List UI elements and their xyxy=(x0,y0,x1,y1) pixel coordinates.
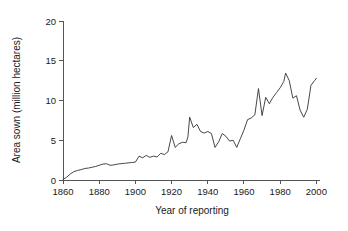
x-tick-label: 1860 xyxy=(52,186,73,197)
x-axis-title: Year of reporting xyxy=(155,205,229,216)
y-axis-ticks: 05101520 xyxy=(45,16,63,186)
x-tick-label: 2000 xyxy=(306,186,327,197)
data-series-line xyxy=(63,73,316,180)
line-chart-plot: 05101520 1860188019001920194019601980200… xyxy=(0,0,348,231)
x-tick-label: 1980 xyxy=(270,186,291,197)
y-tick-label: 15 xyxy=(45,55,56,66)
y-axis-title: Area sown (million hectares) xyxy=(11,37,22,163)
x-tick-label: 1900 xyxy=(125,186,146,197)
x-tick-label: 1920 xyxy=(161,186,182,197)
x-tick-label: 1940 xyxy=(197,186,218,197)
y-tick-label: 10 xyxy=(45,95,56,106)
y-tick-label: 5 xyxy=(51,135,56,146)
x-tick-label: 1880 xyxy=(89,186,110,197)
y-tick-label: 20 xyxy=(45,16,56,27)
x-tick-label: 1960 xyxy=(233,186,254,197)
x-axis-ticks: 18601880190019201940196019802000 xyxy=(52,180,327,197)
y-tick-label: 0 xyxy=(51,175,56,186)
chart-figure: 05101520 1860188019001920194019601980200… xyxy=(0,0,348,231)
